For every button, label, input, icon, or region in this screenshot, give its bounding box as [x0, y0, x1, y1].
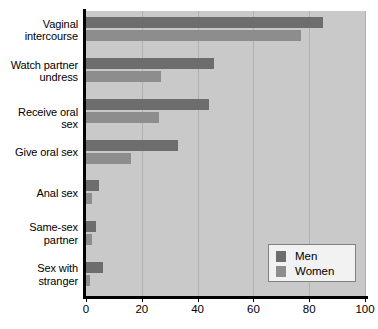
category-label: Give oral sex: [0, 146, 78, 159]
category-label: Watch partnerundress: [0, 59, 78, 84]
bar-women-2: [86, 112, 159, 123]
legend-label-women: Women: [295, 264, 334, 278]
bar-men-6: [86, 262, 103, 273]
x-tick-label: 60: [233, 303, 273, 315]
y-axis-line: [83, 9, 86, 298]
bar-men-1: [86, 58, 214, 69]
x-tick-label: 40: [178, 303, 218, 315]
bar-women-0: [86, 30, 301, 41]
legend-label-men: Men: [295, 249, 317, 263]
bar-men-4: [86, 180, 99, 191]
x-tick-label: 0: [66, 303, 106, 315]
bar-women-1: [86, 71, 161, 82]
category-label: Receive oral sex: [0, 106, 78, 131]
x-tick: [86, 299, 87, 302]
bar-men-0: [86, 17, 323, 28]
x-tick: [142, 299, 143, 302]
gridline: [142, 11, 143, 296]
x-tick-label: 80: [289, 303, 329, 315]
category-label: Anal sex: [0, 187, 78, 200]
legend-swatch-men: [276, 251, 286, 262]
category-label: Same-sexpartner: [0, 221, 78, 246]
bar-men-5: [86, 221, 96, 232]
x-tick: [198, 299, 199, 302]
bar-men-2: [86, 99, 209, 110]
bar-women-5: [86, 234, 92, 245]
category-axis-labels: VaginalintercourseWatch partnerundressRe…: [0, 11, 82, 296]
gridline: [253, 11, 254, 296]
chart-legend: Men Women: [268, 244, 356, 282]
bar-women-6: [86, 275, 90, 286]
x-axis-line: [83, 296, 368, 299]
x-tick: [309, 299, 310, 302]
bar-women-4: [86, 193, 92, 204]
x-tick: [253, 299, 254, 302]
x-tick-label: 100: [345, 303, 378, 315]
gridline: [198, 11, 199, 296]
bar-women-3: [86, 153, 131, 164]
category-label: Sex withstranger: [0, 262, 78, 287]
bar-chart: VaginalintercourseWatch partnerundressRe…: [0, 0, 378, 329]
x-tick: [365, 299, 366, 302]
legend-swatch-women: [276, 266, 286, 277]
bar-men-3: [86, 140, 178, 151]
x-tick-label: 20: [122, 303, 162, 315]
gridline: [365, 11, 366, 296]
category-label: Vaginalintercourse: [0, 18, 78, 43]
